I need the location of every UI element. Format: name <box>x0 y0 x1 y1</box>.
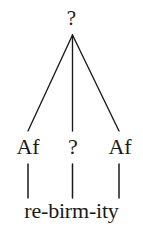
tree-node-unknown-middle: ? <box>50 136 96 158</box>
branch-root-to-right <box>73 35 120 131</box>
tree-node-affix-left: Af <box>5 136 51 158</box>
segmented-word: re-birm-ity <box>0 200 143 222</box>
tree-edges <box>0 0 143 230</box>
tree-node-affix-right: Af <box>97 136 143 158</box>
tree-node-root: ? <box>0 8 143 29</box>
morphology-tree-figure: ? Af ? Af re-birm-ity <box>0 0 143 230</box>
branch-root-to-left <box>28 35 73 131</box>
